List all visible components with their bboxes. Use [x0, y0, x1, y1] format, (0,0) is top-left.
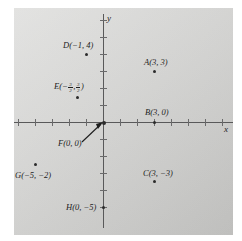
x-axis-line: [14, 122, 233, 123]
point-label-g: G(−5, −2): [15, 171, 51, 180]
point-label-a-text: A(3, 3): [144, 57, 168, 67]
point-label-e-close: ): [81, 81, 84, 91]
y-tick: [100, 88, 107, 89]
point-dot-c: [153, 180, 156, 183]
y-tick: [100, 173, 107, 174]
point-label-f: F(0, 0): [58, 139, 82, 148]
fraction-three-halves-y: 32: [76, 82, 81, 93]
y-axis-label: y: [107, 14, 111, 23]
point-label-f-text: F(0, 0): [58, 138, 82, 148]
point-label-d: D(−1, 4): [63, 41, 93, 50]
x-tick: [120, 119, 121, 126]
point-dot-d: [85, 53, 88, 56]
plot-panel: y x D(−1, 4) A(3, 3) E(−32,32) B(3, 0) F…: [14, 8, 233, 235]
point-dot-e: [76, 96, 79, 99]
point-label-e: E(−32,32): [54, 82, 84, 93]
x-tick: [205, 119, 206, 126]
fraction-three-halves-x: 32: [68, 82, 73, 93]
y-tick: [100, 156, 107, 157]
point-label-b-text: B(3, 0): [145, 107, 169, 117]
fraction-denominator: 2: [68, 88, 73, 93]
x-tick: [222, 119, 223, 126]
x-tick: [188, 119, 189, 126]
x-axis-label: x: [224, 125, 228, 134]
x-tick: [69, 119, 70, 126]
point-label-g-text: G(−5, −2): [15, 170, 51, 180]
y-tick: [100, 139, 107, 140]
point-dot-g: [34, 163, 37, 166]
y-tick: [100, 37, 107, 38]
point-dot-b: [153, 121, 156, 124]
point-label-h-text: H(0, −5): [66, 202, 96, 212]
point-dot-f: [102, 121, 106, 125]
point-label-b: B(3, 0): [145, 108, 169, 117]
x-tick: [18, 119, 19, 126]
x-tick: [52, 119, 53, 126]
y-tick: [100, 71, 107, 72]
point-label-d-text: D(−1, 4): [63, 40, 93, 50]
y-tick: [100, 190, 107, 191]
y-tick: [100, 54, 107, 55]
fraction-denominator: 2: [76, 88, 81, 93]
point-label-h: H(0, −5): [66, 203, 96, 212]
y-tick: [100, 20, 107, 21]
x-tick: [35, 119, 36, 126]
x-tick: [86, 119, 87, 126]
point-dot-h: [102, 206, 105, 209]
point-label-c-text: C(3, −3): [143, 168, 173, 178]
y-tick: [100, 105, 107, 106]
point-dot-a: [153, 70, 156, 73]
x-tick: [171, 119, 172, 126]
coordinate-plane-figure: y x D(−1, 4) A(3, 3) E(−32,32) B(3, 0) F…: [0, 0, 242, 241]
point-label-e-open: (−: [59, 81, 68, 91]
x-tick: [137, 119, 138, 126]
point-label-c: C(3, −3): [143, 169, 173, 178]
point-label-a: A(3, 3): [144, 58, 168, 67]
